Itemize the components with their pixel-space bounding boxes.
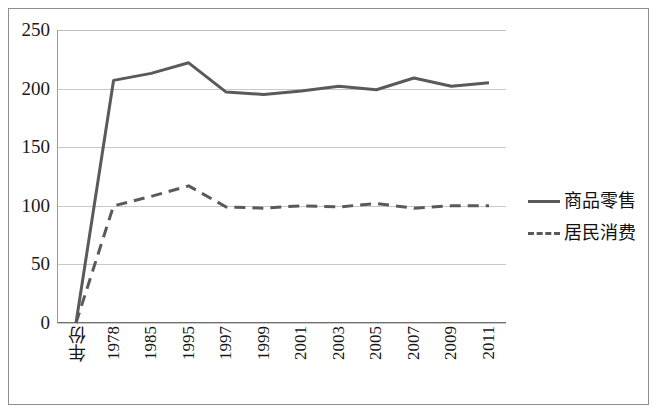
y-axis-tick-label: 250 bbox=[4, 20, 50, 39]
x-axis-tick-label: 1999 bbox=[254, 326, 274, 360]
y-axis-tick-label: 50 bbox=[4, 254, 50, 273]
y-axis-tick-label: 0 bbox=[4, 313, 50, 332]
legend-item[interactable]: 商品零售 bbox=[528, 185, 650, 217]
series-line bbox=[76, 63, 489, 323]
legend-item-label: 居民消费 bbox=[564, 224, 636, 242]
x-axis-tick-label: 1978 bbox=[104, 326, 124, 360]
gridline bbox=[58, 323, 506, 324]
x-axis-labels: 年份19781985199519971999200120032005200720… bbox=[57, 326, 506, 411]
y-axis-labels: 250200150100500 bbox=[0, 30, 50, 323]
x-axis-tick-label: 2001 bbox=[291, 326, 311, 360]
x-axis-tick-label: 1995 bbox=[179, 326, 199, 360]
x-axis-tick-label: 2007 bbox=[404, 326, 424, 360]
y-axis-tick-label: 150 bbox=[4, 137, 50, 156]
chart-figure: 250200150100500 年份1978198519951997199920… bbox=[0, 0, 658, 417]
x-axis-tick-label: 1985 bbox=[141, 326, 161, 360]
legend-item[interactable]: 居民消费 bbox=[528, 217, 650, 249]
legend-item-label: 商品零售 bbox=[564, 192, 636, 210]
series-layer bbox=[58, 30, 507, 323]
y-axis-tick-label: 100 bbox=[4, 196, 50, 215]
x-axis-tick-label: 2003 bbox=[329, 326, 349, 360]
x-axis-tick-label: 2005 bbox=[366, 326, 386, 360]
legend-line-icon bbox=[528, 200, 560, 203]
chart-legend: 商品零售居民消费 bbox=[528, 185, 650, 249]
x-axis-tick-label: 2009 bbox=[441, 326, 461, 360]
y-axis-tick-label: 200 bbox=[4, 79, 50, 98]
plot-area bbox=[57, 30, 506, 323]
x-axis-tick-label: 年份 bbox=[66, 326, 92, 362]
x-axis-tick-label: 2011 bbox=[479, 326, 499, 359]
series-line bbox=[76, 186, 489, 323]
legend-line-icon bbox=[528, 232, 560, 235]
x-axis-tick-label: 1997 bbox=[216, 326, 236, 360]
